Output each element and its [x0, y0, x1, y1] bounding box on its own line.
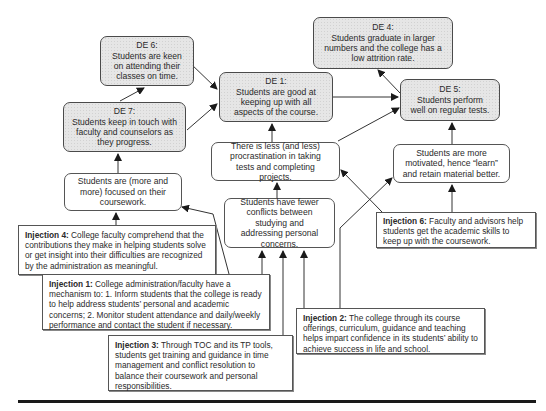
de7-title: DE 7:	[114, 106, 136, 116]
arrow-de7-to-de6	[120, 88, 144, 101]
injection-3-box: Injection 3: Through TOC and its TP tool…	[108, 335, 293, 391]
motivated-box: Students are more motivated, hence “lear…	[393, 144, 510, 183]
de1-text: Students are good at keeping up with all…	[220, 87, 332, 118]
de4-title: DE 4:	[372, 22, 394, 32]
de5-title: DE 5:	[439, 84, 461, 94]
procrastination-box: There is less (and less) procrastination…	[211, 142, 340, 181]
arrow-procrastination-to-de5	[338, 108, 399, 141]
conflicts-text: Students have fewer conflicts between st…	[225, 197, 334, 249]
injection-2-label: Injection 2:	[303, 313, 347, 323]
de4-box: DE 4: Students graduate in larger number…	[313, 17, 453, 69]
de5-text: Students perform well on regular tests.	[401, 95, 499, 116]
de1-box: DE 1: Students are good at keeping up wi…	[219, 72, 333, 122]
injection-4-box: Injection 4: College faculty comprehend …	[18, 225, 216, 275]
injection-1-box: Injection 1: College administration/facu…	[42, 274, 270, 330]
arrow-inj6-to-procrastination	[341, 170, 382, 212]
injection-2-box: Injection 2: The college through its cou…	[296, 308, 485, 354]
de6-box: DE 6: Students are keen on attending the…	[100, 36, 194, 86]
de6-text: Students are keen on attending their cla…	[101, 51, 193, 82]
de1-title: DE 1:	[265, 76, 287, 86]
motivated-text: Students are more motivated, hence “lear…	[394, 148, 509, 179]
de6-title: DE 6:	[136, 40, 158, 50]
de7-text: Students keep in touch with faculty and …	[64, 117, 185, 148]
de5-box: DE 5: Students perform well on regular t…	[400, 79, 500, 121]
procrastination-text: There is less (and less) procrastination…	[212, 141, 339, 183]
de4-text: Students graduate in larger numbers and …	[314, 33, 452, 64]
arrow-de7-to-de1	[187, 104, 217, 130]
bottom-rule	[18, 400, 536, 403]
injection-3-label: Injection 3:	[115, 340, 159, 350]
focused-text: Students are (more and more) focused on …	[65, 176, 181, 207]
conflicts-box: Students have fewer conflicts between st…	[224, 198, 335, 248]
injection-6-label: Injection 6:	[383, 216, 427, 226]
injection-6-box: Injection 6: Faculty and advisors help s…	[376, 212, 536, 248]
focused-box: Students are (more and more) focused on …	[64, 173, 182, 211]
de7-box: DE 7: Students keep in touch with facult…	[63, 102, 186, 152]
injection-1-label: Injection 1:	[49, 279, 93, 289]
injection-4-label: Injection 4:	[25, 230, 69, 240]
arrow-de5-to-de4	[378, 70, 400, 93]
